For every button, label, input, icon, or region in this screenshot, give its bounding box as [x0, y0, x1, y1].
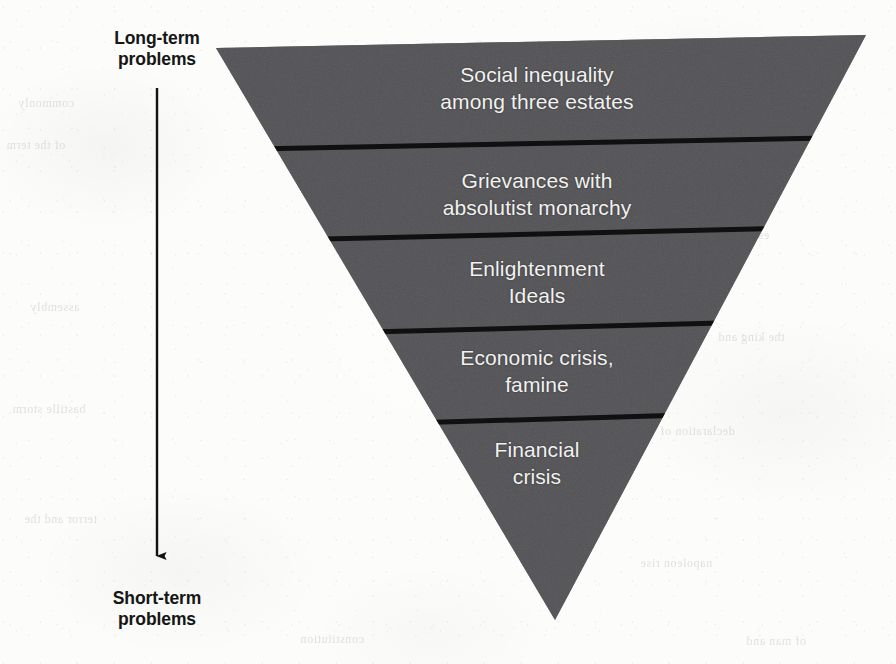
short-term-label-line1: Short-term — [64, 588, 250, 609]
long-term-label-line2: problems — [64, 49, 250, 70]
short-term-label-line2: problems — [64, 609, 250, 630]
long-term-label-line1: Long-term — [64, 28, 250, 49]
inverted-pyramid-diagram — [0, 0, 896, 664]
figure-page: commonlyof the termrevolutionestates gen… — [0, 0, 896, 664]
short-term-problems-label: Short-term problems — [64, 588, 250, 631]
long-term-problems-label: Long-term problems — [64, 28, 250, 71]
